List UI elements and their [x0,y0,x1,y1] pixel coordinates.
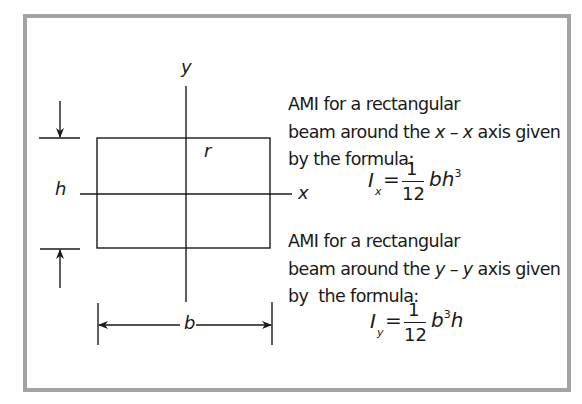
formula-subscript: y [377,326,384,339]
term-base: h [451,308,464,332]
formula-term: b3h [431,308,463,332]
formula-subscript: x [375,185,382,198]
formula-denominator: 12 [402,183,425,204]
formula-numerator: 1 [408,299,419,320]
axis-expression: x – x [435,122,473,142]
formula-equals: = [383,167,400,191]
beam-rectangle [97,138,270,248]
term-base: b [431,308,444,332]
description-line: AMI for a rectangular [288,91,560,119]
description-line: AMI for a rectangular [288,228,560,256]
formula-equals: = [385,308,402,332]
formula-term: bh3 [429,167,461,191]
term-exponent: 3 [454,167,461,180]
width-label: b [183,314,196,332]
formula-symbol: I [368,168,374,192]
text-segment: axis given [473,122,561,142]
description-y-axis: AMI for a rectangular beam around the y … [288,228,560,311]
term-exponent: 3 [444,308,451,321]
y-axis-label: y [181,58,192,76]
description-line: beam around the y – y axis given [288,256,560,284]
text-segment: beam around the [288,122,435,142]
text-segment: beam around the [288,259,435,279]
description-line: by the formula: [288,146,560,174]
text-segment: axis given [473,259,561,279]
beam-cross-section-drawing [0,0,582,404]
formula-numerator: 1 [406,158,417,179]
term-base: bh [429,167,454,191]
formula-symbol: I [370,309,376,333]
description-x-axis: AMI for a rectangular beam around the x … [288,91,560,174]
radius-label: r [204,142,211,160]
formula-denominator: 12 [404,324,427,345]
description-line: by the formula: [288,283,560,311]
x-axis-label: x [298,184,309,202]
axis-expression: y – y [435,259,473,279]
description-line: beam around the x – x axis given [288,119,560,147]
height-label: h [55,180,66,198]
